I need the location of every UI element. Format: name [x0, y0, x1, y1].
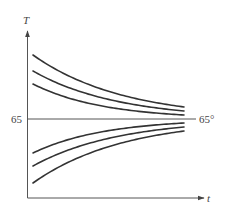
y-axis-label: T	[23, 14, 30, 26]
x-axis-label: t	[207, 192, 211, 204]
reference-degree-label: 65°	[199, 113, 214, 125]
reference-value-label: 65	[11, 113, 23, 125]
newton-cooling-diagram: T t 65 65°	[0, 0, 227, 217]
